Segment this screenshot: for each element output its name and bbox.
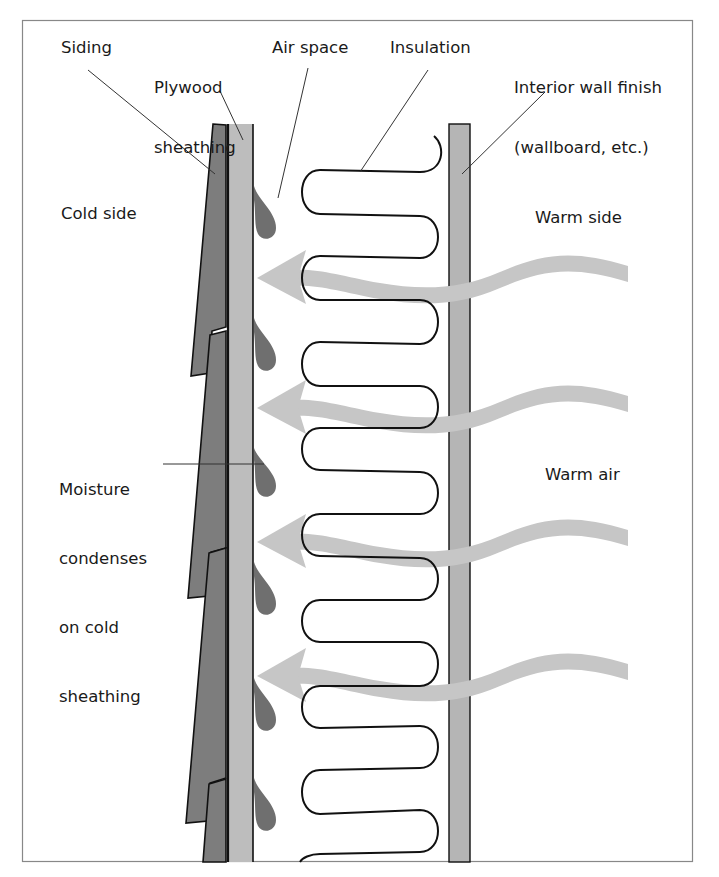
label-warm-air: Warm air — [545, 465, 620, 485]
label-cold-side: Cold side — [61, 204, 137, 224]
label-warm-side: Warm side — [535, 208, 622, 228]
label-siding: Siding — [61, 38, 112, 58]
label-moisture-condenses: Moisture condenses on cold sheathing — [59, 432, 147, 731]
interior-wallboard — [449, 124, 470, 862]
plywood-sheathing — [228, 124, 253, 862]
label-insulation: Insulation — [390, 38, 471, 58]
label-air-space: Air space — [272, 38, 348, 58]
label-interior-wall-finish: Interior wall finish (wallboard, etc.) — [514, 38, 662, 178]
label-plywood-sheathing: Plywood sheathing — [154, 38, 236, 178]
